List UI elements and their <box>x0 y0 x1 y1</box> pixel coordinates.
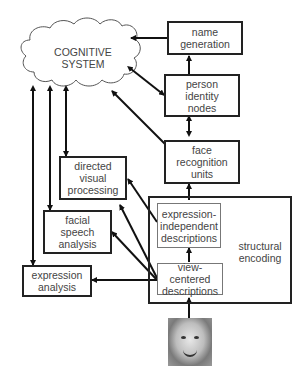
expression-independent-descriptions-box: expression- independent descriptions <box>157 203 221 248</box>
directed-visual-processing-label: directed visual processing <box>68 160 119 196</box>
cognitive-system-label: COGNITIVE SYSTEM <box>48 46 118 70</box>
face-photo <box>168 318 212 366</box>
name-generation-label: name generation <box>180 26 230 50</box>
connector-layer <box>0 0 300 381</box>
view-centered-descriptions-label: view-centered descriptions <box>158 261 222 297</box>
face-eye-left <box>181 336 186 339</box>
name-generation-box: name generation <box>167 21 243 55</box>
person-identity-nodes-box: person identity nodes <box>164 74 240 117</box>
expression-analysis-box: expression analysis <box>22 265 92 297</box>
face-eye-right <box>194 336 199 339</box>
directed-visual-processing-box: directed visual processing <box>59 156 127 200</box>
face-recognition-units-label: face recognition units <box>176 144 227 180</box>
view-centered-descriptions-box: view-centered descriptions <box>157 263 223 295</box>
person-identity-nodes-label: person identity nodes <box>185 78 218 114</box>
structural-encoding-label: structural encoding <box>232 240 288 264</box>
facial-speech-analysis-label: facial speech analysis <box>59 214 97 250</box>
face-recognition-units-box: face recognition units <box>164 140 240 184</box>
face-mouth <box>183 349 197 357</box>
expression-independent-descriptions-label: expression- independent descriptions <box>160 208 218 244</box>
expression-analysis-label: expression analysis <box>32 269 83 293</box>
facial-speech-analysis-box: facial speech analysis <box>43 210 112 254</box>
